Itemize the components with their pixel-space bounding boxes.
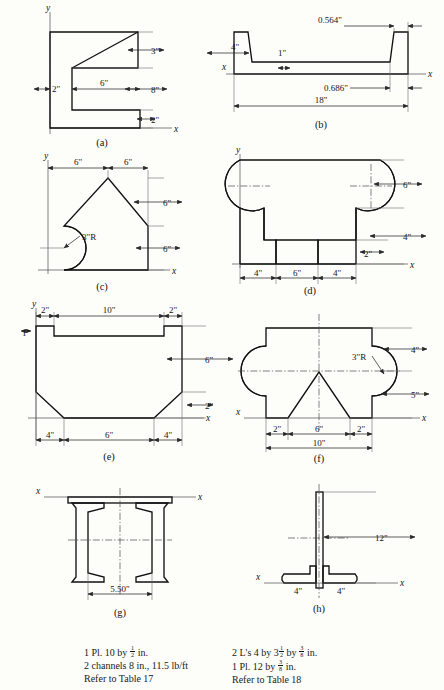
caption-left: 1 Pl. 10 by 12 in. 2 channels 8 in., 11.… — [84, 645, 188, 685]
caption-left-line-2: 2 channels 8 in., 11.5 lb/ft — [84, 659, 188, 672]
figure-sheet: y x 3" 8" 2" 2" — [0, 0, 444, 690]
axis-x-label-h-right: x — [399, 578, 405, 588]
shape-outline-e — [36, 326, 182, 418]
fraction-one-half-2: 12 — [279, 645, 284, 658]
panel-label-f: (f) — [314, 453, 325, 465]
dim-label-e-2in-v: 2" — [205, 401, 214, 411]
dim-label-e-10in: 10" — [103, 305, 116, 315]
dim-label-a-2in-h: 2" — [52, 84, 61, 94]
dim-label-e-4in-right: 4" — [164, 430, 173, 440]
caption-right-line-2: 1 Pl. 12 by 38 in. — [232, 659, 317, 673]
dim-label-c-6in-upper: 6" — [163, 198, 172, 208]
caption-right-line-3: Refer to Table 18 — [232, 673, 317, 686]
dim-label-d-4in-left: 4" — [254, 268, 263, 278]
panel-label-c: (c) — [96, 281, 108, 293]
axis-x-label-g-left: x — [35, 486, 41, 496]
dim-label-b-1in: 1" — [278, 48, 287, 58]
dim-label-d-6in-h: 6" — [293, 268, 302, 278]
dim-label-a-6in: 6" — [100, 78, 109, 88]
panel-label-g: (g) — [114, 607, 127, 619]
axis-x-label-b-left: x — [221, 62, 227, 72]
shape-bottom-profile-d — [240, 240, 356, 264]
axis-x-label-c: x — [171, 266, 177, 276]
caption-left-line-1: 1 Pl. 10 by 12 in. — [84, 645, 188, 659]
axis-y-label-a: y — [45, 3, 51, 13]
fraction-one-half: 12 — [130, 645, 135, 658]
shape-outline-c — [64, 178, 148, 270]
axis-x-label-h-left: x — [255, 572, 261, 582]
dim-label-f-10in: 10" — [313, 438, 326, 448]
dim-label-f-4in: 4" — [411, 345, 420, 355]
dim-label-b-0564: 0.564" — [318, 15, 342, 25]
dim-label-c-6in-lower: 6" — [163, 244, 172, 254]
shape-left-notch-arc-d — [225, 160, 264, 211]
dim-label-e-2in-left: 2" — [41, 305, 50, 315]
figure-panel-c: y x 6" 6" 6" 6" — [18, 152, 224, 296]
dim-label-f-5in: 5" — [411, 390, 420, 400]
dim-label-f-2in-left: 2" — [273, 424, 282, 434]
shape-outline-a — [50, 32, 140, 128]
shape-outline-b — [234, 32, 408, 74]
axis-x-label-d: x — [409, 260, 415, 270]
axis-y-label-d: y — [235, 145, 241, 155]
shape-vertical-plate-h — [316, 492, 323, 588]
dim-label-h-4in-right: 4" — [337, 586, 346, 596]
caption-right: 2 L's 4 by 312 by 38 in. 1 Pl. 12 by 38 … — [232, 645, 317, 686]
figure-panel-b: x x 4" 1" 0.564" 0.686" 18" — [222, 12, 438, 138]
figure-panel-h: x x 12" 4" 4" (h) — [224, 470, 440, 620]
dim-label-f-2in-right: 2" — [357, 424, 366, 434]
shape-left-angle-h — [282, 566, 316, 583]
shape-slot-d — [264, 208, 356, 240]
dim-label-d-4in-right: 4" — [333, 268, 342, 278]
dim-label-c-6in-right: 6" — [124, 157, 133, 167]
shape-right-channel-g — [136, 503, 168, 582]
figure-panel-g: x x 5.50" (g) — [10, 470, 230, 620]
axis-y-label-e: y — [31, 299, 37, 309]
dim-label-a-8in: 8" — [151, 85, 160, 95]
dim-label-e-6in-v: 6" — [205, 355, 214, 365]
dim-label-e-4in-left: 4" — [46, 430, 55, 440]
dim-label-h-4in-left: 4" — [294, 586, 303, 596]
dim-label-f-6in: 6" — [315, 424, 324, 434]
dim-label-c-3R: 3"R — [82, 232, 96, 242]
caption-right-line-1: 2 L's 4 by 312 by 38 in. — [232, 645, 317, 659]
shape-right-notch-arc-d — [356, 160, 395, 211]
dim-label-c-6in-left: 6" — [74, 157, 83, 167]
dim-label-d-2in: 2" — [364, 249, 373, 259]
figure-panel-e: y x 2" 10" 2" 1" 6" — [8, 300, 228, 464]
caption-left-line-3: Refer to Table 17 — [84, 672, 188, 685]
dim-label-b-18in: 18" — [315, 95, 328, 105]
axis-x-label-f-right: x — [421, 413, 427, 423]
dim-label-a-3in: 3" — [151, 46, 160, 56]
dim-label-e-2in-right: 2" — [169, 305, 178, 315]
panel-label-d: (d) — [304, 285, 317, 297]
axis-y-label-c: y — [43, 151, 49, 161]
dim-label-d-6in: 6" — [403, 180, 412, 190]
axis-x-label-f-left: x — [235, 407, 241, 417]
shape-right-angle-h — [323, 566, 357, 583]
panel-label-h: (h) — [313, 603, 326, 615]
figure-panel-a: y x 3" 8" 2" 2" — [20, 6, 220, 148]
axis-x-label-b: x — [427, 69, 433, 79]
dim-label-e-6in-h: 6" — [105, 430, 114, 440]
panel-label-a: (a) — [96, 137, 108, 149]
dim-label-f-3R: 3"R — [352, 352, 366, 362]
dim-line-c-3R-leader — [64, 236, 80, 248]
panel-label-b: (b) — [315, 119, 328, 131]
dim-label-e-1in: 1" — [22, 328, 31, 338]
panel-label-e: (e) — [103, 451, 115, 463]
axis-x-label-g-right: x — [197, 492, 203, 502]
dim-label-d-4in-v: 4" — [403, 232, 412, 242]
dim-label-b-0686: 0.686" — [324, 83, 348, 93]
dim-label-a-2in-v: 2" — [151, 115, 160, 125]
shape-left-channel-g — [72, 503, 104, 582]
dim-label-h-12in: 12" — [375, 533, 388, 543]
fraction-three-eighths-2: 38 — [278, 659, 283, 672]
fraction-three-eighths: 38 — [299, 645, 304, 658]
figure-panel-f: x x 4" 5" 3"R 2" 6" 2" — [224, 300, 440, 464]
dim-label-b-4in: 4" — [231, 42, 240, 52]
axis-x-label-a: x — [173, 124, 179, 134]
figure-panel-d: y x 6" — [222, 148, 438, 296]
dim-label-g-550: 5.50" — [110, 584, 130, 594]
